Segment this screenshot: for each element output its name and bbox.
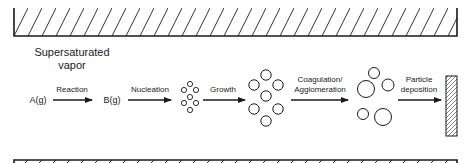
deposition-label-line-1: Particle: [406, 75, 433, 84]
top-wall: [14, 8, 457, 36]
reaction-step: Reaction: [53, 85, 92, 100]
coagulation-step: Coagulation/ Agglomeration: [291, 75, 348, 100]
particle-formation-diagram: Supersaturated vapor A(g) Reaction B(g) …: [0, 0, 473, 163]
product-label: B(g): [103, 95, 120, 105]
coagulation-label-line-1: Coagulation/: [298, 75, 344, 84]
title-line-1: Supersaturated: [34, 46, 109, 58]
reactant-label: A(g): [29, 95, 46, 105]
deposition-label-line-2: deposition: [401, 85, 437, 94]
reaction-label: Reaction: [56, 85, 88, 94]
nucleation-label: Nucleation: [131, 85, 169, 94]
title-supersaturated-vapor: Supersaturated vapor: [34, 46, 109, 71]
deposition-step: Particle deposition: [398, 75, 441, 100]
deposition-wall: [446, 76, 457, 136]
title-line-2: vapor: [58, 59, 86, 71]
agglomerated-particles-icon: [358, 68, 395, 126]
bottom-wall: [14, 160, 457, 163]
coagulation-label-line-2: Agglomeration: [294, 85, 346, 94]
nuclei-cluster-icon: [181, 81, 198, 112]
nucleation-step: Nucleation: [128, 85, 171, 100]
growth-step: Growth: [203, 85, 245, 100]
grown-particles-icon: [249, 70, 283, 126]
growth-label: Growth: [210, 85, 236, 94]
